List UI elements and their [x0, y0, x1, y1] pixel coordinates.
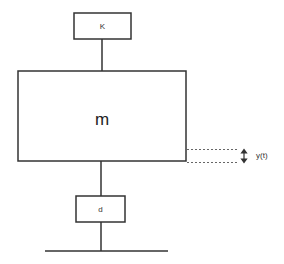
displacement-indicator: y(t)	[187, 150, 268, 163]
spring-element: K	[74, 13, 131, 39]
mass-element: m	[18, 71, 186, 161]
displacement-label: y(t)	[256, 151, 268, 160]
double-vertical-arrow-icon	[242, 150, 247, 163]
damper-element: d	[76, 196, 125, 222]
damper-label: d	[98, 205, 102, 214]
spring-label: K	[100, 22, 106, 31]
mass-spring-damper-diagram: K m d y(t)	[0, 0, 284, 264]
mass-label: m	[95, 110, 109, 129]
